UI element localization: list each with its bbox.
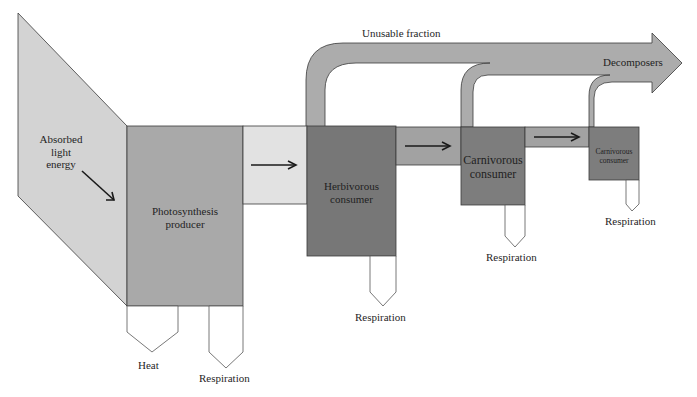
- absorbed-light-line-1: Absorbed: [30, 133, 92, 146]
- producer-respiration-label: Respiration: [199, 372, 250, 385]
- producer-label: Photosynthesis producer: [130, 205, 240, 230]
- carnivore1-respiration-label: Respiration: [486, 251, 537, 264]
- carnivore2-label-line-2: consumer: [589, 157, 639, 166]
- absorbed-light-label: Absorbed light energy: [30, 133, 92, 171]
- carnivore1-label-line-2: consumer: [461, 168, 525, 182]
- unusable-fraction-arrow: [306, 33, 682, 127]
- herbivore-label: Herbivorous consumer: [307, 180, 396, 205]
- herbivore-label-line-2: consumer: [307, 193, 396, 206]
- decomposers-label: Decomposers: [603, 56, 663, 69]
- carnivore2-respiration-spout: [626, 180, 639, 211]
- herbivore-respiration-spout: [370, 256, 396, 306]
- producer-label-line-2: producer: [130, 218, 240, 231]
- absorbed-light-line-3: energy: [30, 158, 92, 171]
- decomposer-flow-band: [306, 33, 682, 127]
- carnivore1-label: Carnivorous consumer: [461, 154, 525, 182]
- carnivore1-respiration-spout: [505, 205, 525, 247]
- producer-label-line-1: Photosynthesis: [130, 205, 240, 218]
- herbivore-label-line-1: Herbivorous: [307, 180, 396, 193]
- producer-respiration-spout: [209, 306, 243, 368]
- heat-label: Heat: [138, 359, 159, 372]
- heat-spout: [127, 306, 178, 352]
- carnivore2-respiration-label: Respiration: [605, 215, 656, 228]
- herbivore-respiration-label: Respiration: [355, 311, 406, 324]
- carnivore1-label-line-1: Carnivorous: [461, 154, 525, 168]
- carnivore2-label: Carnivorous consumer: [589, 148, 639, 165]
- unusable-fraction-label: Unusable fraction: [362, 27, 441, 40]
- absorbed-light-line-2: light: [30, 146, 92, 159]
